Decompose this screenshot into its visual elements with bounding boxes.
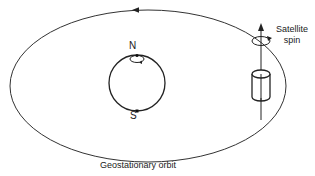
orbit-direction-arrow-icon — [132, 7, 139, 12]
north-pole-label: N — [129, 41, 136, 51]
north-pole-dot — [136, 54, 139, 57]
orbit-label: Geostationary orbit — [100, 161, 176, 170]
satellite-spin-label-line1: Satellite — [276, 24, 308, 35]
geostationary-orbit-diagram — [0, 0, 315, 176]
satellite-cylinder — [252, 70, 270, 101]
earth-circle — [109, 55, 165, 111]
satellite-spin-label: Satellite spin — [276, 24, 308, 46]
south-pole-label: S — [130, 111, 137, 121]
orbit-ellipse — [10, 10, 286, 162]
satellite-spin-label-line2: spin — [276, 35, 308, 46]
spin-axis-arrow-icon — [258, 23, 264, 31]
